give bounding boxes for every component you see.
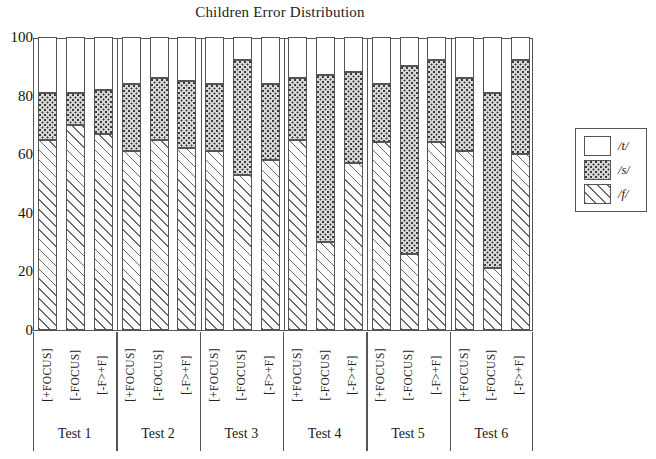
stacked-bar[interactable]	[400, 39, 419, 330]
bar-segment-f	[511, 154, 530, 330]
bar-segment-t	[261, 37, 280, 84]
bar-segment-t	[150, 37, 169, 78]
bar-segment-f	[344, 163, 363, 330]
x-axis-label-text: [+FOCUS]	[41, 348, 53, 402]
x-axis-label: [+FOCUS]	[450, 332, 478, 417]
bar-segment-s	[288, 78, 307, 140]
stacked-bar[interactable]	[66, 39, 85, 330]
bar-segment-t	[66, 37, 85, 93]
stacked-bar[interactable]	[511, 39, 530, 330]
group-separator	[366, 332, 367, 417]
chart-title: Children Error Distribution	[0, 4, 560, 21]
bar-segment-t	[511, 37, 530, 60]
bar-segment-f	[316, 242, 335, 330]
x-axis-label: [-F>+F]	[422, 332, 450, 417]
x-axis-label: [-FOCUS]	[61, 332, 89, 417]
stacked-bar[interactable]	[177, 39, 196, 330]
x-axis-label-text: [-F>+F]	[180, 355, 192, 394]
group-separator	[117, 39, 118, 330]
bar-segment-s	[122, 84, 141, 151]
x-axis-label: [+FOCUS]	[200, 332, 228, 417]
stacked-bar[interactable]	[455, 39, 474, 330]
bar-segment-s	[66, 93, 85, 125]
bar-segment-s	[94, 90, 113, 134]
legend-swatch	[584, 184, 611, 204]
legend-item-t[interactable]: /t/	[584, 136, 642, 158]
group-label-5: Test 5	[366, 417, 449, 451]
x-axis-label: [-F>+F]	[339, 332, 367, 417]
group-separator	[116, 332, 117, 417]
bar-segment-t	[316, 37, 335, 75]
group-separator	[450, 332, 451, 417]
bar-segment-t	[177, 37, 196, 81]
x-axis-label: [-F>+F]	[89, 332, 117, 417]
bar-segment-s	[261, 84, 280, 160]
chart-legend: /t//s//f/	[575, 128, 647, 212]
bar-segment-f	[483, 268, 502, 330]
bar-segment-t	[38, 37, 57, 93]
y-axis-tick-label: 60	[3, 146, 33, 163]
stacked-bar[interactable]	[288, 39, 307, 330]
x-axis-label-text: [-FOCUS]	[152, 349, 164, 400]
stacked-bar[interactable]	[483, 39, 502, 330]
bar-segment-s	[150, 78, 169, 140]
legend-item-s[interactable]: /s/	[584, 160, 642, 182]
bar-segment-s	[400, 66, 419, 254]
legend-item-f[interactable]: /f/	[584, 184, 642, 206]
bar-segment-t	[205, 37, 224, 84]
x-axis-label-text: [-FOCUS]	[69, 349, 81, 400]
x-axis-label-text: [-F>+F]	[430, 355, 442, 394]
group-separator	[201, 39, 202, 330]
x-axis-label-text: [-F>+F]	[513, 355, 525, 394]
stacked-bar[interactable]	[344, 39, 363, 330]
stacked-bar[interactable]	[122, 39, 141, 330]
stacked-bar[interactable]	[261, 39, 280, 330]
legend-swatch	[584, 136, 611, 156]
group-label-1: Test 1	[33, 417, 116, 451]
x-axis-label-text: [+FOCUS]	[291, 348, 303, 402]
bar-segment-t	[400, 37, 419, 66]
x-axis-label-text: [+FOCUS]	[208, 348, 220, 402]
group-label-4: Test 4	[283, 417, 366, 451]
x-axis-label: [+FOCUS]	[116, 332, 144, 417]
stacked-bar[interactable]	[38, 39, 57, 330]
y-axis-tick-label: 100	[3, 29, 33, 46]
x-axis-label-text: [-F>+F]	[96, 355, 108, 394]
x-axis-label: [+FOCUS]	[366, 332, 394, 417]
bar-container	[34, 39, 532, 330]
x-axis-label-text: [-FOCUS]	[485, 349, 497, 400]
bar-segment-s	[455, 78, 474, 151]
bar-segment-f	[233, 175, 252, 330]
bar-segment-f	[261, 160, 280, 330]
bar-segment-s	[233, 60, 252, 174]
x-axis-label: [-FOCUS]	[227, 332, 255, 417]
x-axis-label: [-F>+F]	[255, 332, 283, 417]
stacked-bar[interactable]	[427, 39, 446, 330]
stacked-bar[interactable]	[150, 39, 169, 330]
legend-label: /t/	[618, 136, 628, 156]
group-separator	[451, 39, 452, 330]
stacked-bar[interactable]	[316, 39, 335, 330]
bar-segment-s	[427, 60, 446, 142]
stacked-bar[interactable]	[233, 39, 252, 330]
group-separator	[283, 332, 284, 417]
x-axis-label-text: [+FOCUS]	[124, 348, 136, 402]
stacked-bar[interactable]	[372, 39, 391, 330]
stacked-bar[interactable]	[205, 39, 224, 330]
y-axis-tick-label: 40	[3, 205, 33, 222]
bar-segment-f	[94, 134, 113, 330]
x-axis-label: [-FOCUS]	[394, 332, 422, 417]
x-axis-label-text: [-FOCUS]	[319, 349, 331, 400]
bar-segment-t	[455, 37, 474, 78]
x-axis-label: [-FOCUS]	[477, 332, 505, 417]
stacked-bar[interactable]	[94, 39, 113, 330]
bar-segment-f	[427, 142, 446, 330]
bar-segment-f	[372, 142, 391, 330]
group-label-6: Test 6	[450, 417, 533, 451]
group-label-3: Test 3	[200, 417, 283, 451]
bar-segment-s	[316, 75, 335, 242]
bar-segment-f	[205, 151, 224, 330]
legend-swatch	[584, 160, 611, 180]
y-axis-tick-label: 80	[3, 88, 33, 105]
x-axis-label: [-FOCUS]	[144, 332, 172, 417]
